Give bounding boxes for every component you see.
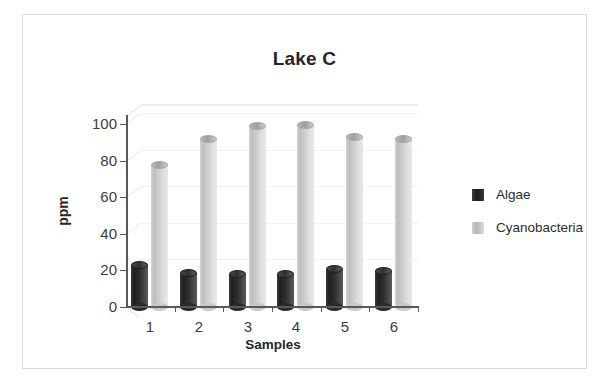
x-tick-label: 2 <box>195 318 203 335</box>
bar-algae-2[interactable] <box>180 269 197 307</box>
cylinder-body <box>326 269 343 307</box>
y-tick-label: 40 <box>100 225 117 242</box>
floor-svg <box>127 308 419 318</box>
x-tick <box>175 306 176 312</box>
cylinder-cap <box>151 161 168 169</box>
bar-cyanobacteria-5[interactable] <box>346 133 363 307</box>
x-tick <box>321 306 322 312</box>
cylinder-body <box>151 165 168 307</box>
y-tick <box>120 197 126 198</box>
bar-algae-6[interactable] <box>375 267 392 307</box>
cylinder-cap <box>297 121 314 129</box>
x-tick <box>369 306 370 312</box>
x-tick-label: 3 <box>244 318 252 335</box>
x-tick <box>223 306 224 312</box>
chart-title: Lake C <box>23 48 586 70</box>
bar-cyanobacteria-6[interactable] <box>395 135 412 307</box>
legend: Algae Cyanobacteria <box>472 187 583 253</box>
cylinder-body <box>297 125 314 308</box>
bar-algae-1[interactable] <box>131 261 148 307</box>
cylinder-body <box>395 139 412 307</box>
legend-label-cyanobacteria: Cyanobacteria <box>496 220 583 235</box>
x-axis: 123456 <box>126 306 419 308</box>
cylinder-body <box>200 139 217 307</box>
bar-cyanobacteria-3[interactable] <box>249 122 266 307</box>
cylinder-body <box>249 126 266 307</box>
y-tick-label: 20 <box>100 262 117 279</box>
x-tick <box>418 306 419 312</box>
plot-area <box>127 115 419 307</box>
bar-algae-3[interactable] <box>229 270 246 307</box>
x-axis-title: Samples <box>127 337 419 352</box>
y-tick <box>120 124 126 125</box>
gridline <box>127 223 419 236</box>
x-tick-label: 4 <box>292 318 300 335</box>
cylinder-body <box>375 271 392 307</box>
y-tick <box>120 234 126 235</box>
y-tick-label: 80 <box>100 152 117 169</box>
bar-cyanobacteria-2[interactable] <box>200 135 217 307</box>
cylinder-cap <box>375 267 392 275</box>
y-tick-label: 60 <box>100 188 117 205</box>
y-tick <box>120 270 126 271</box>
legend-item-cyanobacteria[interactable]: Cyanobacteria <box>472 220 583 235</box>
gridline <box>127 186 419 199</box>
x-tick-label: 1 <box>146 318 154 335</box>
bar-algae-4[interactable] <box>277 270 294 307</box>
gridline <box>127 113 419 126</box>
legend-swatch-algae <box>472 189 484 201</box>
chart-frame: Lake C 020406080100 123456 ppm Samples A… <box>22 14 587 369</box>
x-tick-label: 5 <box>341 318 349 335</box>
legend-swatch-cyanobacteria <box>472 222 484 234</box>
y-axis: 020406080100 <box>126 115 128 307</box>
legend-item-algae[interactable]: Algae <box>472 187 583 202</box>
bar-cyanobacteria-4[interactable] <box>297 121 314 308</box>
bar-algae-5[interactable] <box>326 265 343 307</box>
y-tick <box>120 161 126 162</box>
gridline <box>127 150 419 163</box>
cylinder-body <box>346 137 363 307</box>
y-tick-label: 100 <box>92 115 117 132</box>
x-tick-label: 6 <box>390 318 398 335</box>
cylinder-cap <box>180 269 197 277</box>
cylinder-cap <box>326 265 343 273</box>
y-tick-label: 0 <box>109 298 117 315</box>
cylinder-body <box>180 273 197 307</box>
y-axis-title: ppm <box>55 196 71 226</box>
bar-cyanobacteria-1[interactable] <box>151 161 168 307</box>
x-tick <box>272 306 273 312</box>
legend-label-algae: Algae <box>496 187 531 202</box>
cylinder-body <box>131 265 148 307</box>
